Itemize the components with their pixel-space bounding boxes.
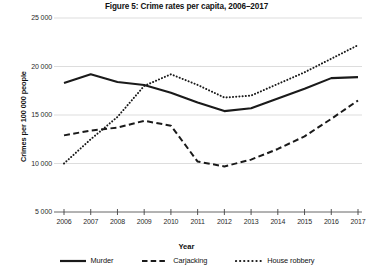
series-line-carjacking	[64, 100, 358, 166]
y-tick-label: 10 000	[6, 160, 52, 167]
legend-swatch-dashed-icon	[141, 257, 169, 265]
x-tick-label: 2016	[318, 218, 344, 225]
legend-label: Carjacking	[173, 256, 207, 265]
x-tick-label: 2010	[158, 218, 184, 225]
y-tick-label: 5 000	[6, 208, 52, 215]
series-line-murder	[64, 74, 358, 111]
line-chart-plot	[0, 0, 373, 275]
y-tick-label: 25 000	[6, 14, 52, 21]
legend-swatch-solid-icon	[59, 257, 87, 265]
x-tick-label: 2014	[265, 218, 291, 225]
figure-container: Figure 5: Crime rates per capita, 2006–2…	[0, 0, 373, 275]
y-tick-label: 15 000	[6, 111, 52, 118]
x-tick-label: 2008	[104, 218, 130, 225]
legend-label: House robbery	[267, 256, 314, 265]
x-tick-label: 2011	[185, 218, 211, 225]
x-tick-label: 2017	[345, 218, 371, 225]
x-tick-label: 2009	[131, 218, 157, 225]
x-tick-label: 2012	[211, 218, 237, 225]
x-tick-label: 2013	[238, 218, 264, 225]
legend-item-house-robbery[interactable]: House robbery	[235, 256, 314, 265]
legend-item-murder[interactable]: Murder	[59, 256, 114, 265]
legend-label: Murder	[91, 256, 114, 265]
x-tick-label: 2015	[292, 218, 318, 225]
gridlines	[54, 18, 362, 212]
chart-legend: MurderCarjackingHouse robbery	[0, 256, 373, 265]
x-tick-label: 2007	[78, 218, 104, 225]
x-tick-label: 2006	[51, 218, 77, 225]
series-line-house-robbery	[64, 45, 358, 163]
x-axis-title: Year	[0, 242, 373, 251]
data-series-group	[64, 45, 358, 166]
legend-swatch-dotted-icon	[235, 257, 263, 265]
legend-item-carjacking[interactable]: Carjacking	[141, 256, 207, 265]
y-tick-label: 20 000	[6, 63, 52, 70]
